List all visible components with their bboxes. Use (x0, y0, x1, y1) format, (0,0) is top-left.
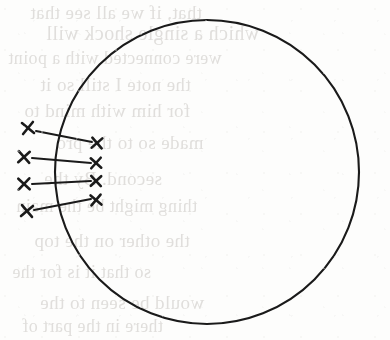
outer-cross-mark (18, 178, 29, 189)
outer-cross-mark (18, 151, 30, 163)
large-circle (55, 20, 359, 324)
inner-cross-mark (91, 195, 102, 206)
diagram-canvas (0, 0, 390, 340)
connector-line (36, 131, 92, 142)
inner-cross-mark (91, 176, 101, 186)
outer-cross-mark (22, 122, 34, 134)
connector-line (32, 158, 91, 163)
connector-line (34, 199, 91, 210)
connector-line (32, 181, 91, 184)
connector-group (32, 131, 92, 210)
outer-cross-mark-group (18, 122, 34, 217)
inner-cross-mark (92, 138, 103, 149)
figure-root: that, if we all see thatwhich a single s… (0, 0, 390, 340)
inner-cross-mark (91, 158, 102, 169)
circle-group (55, 20, 359, 324)
outer-cross-mark (21, 205, 33, 217)
inner-cross-mark-group (91, 138, 103, 206)
